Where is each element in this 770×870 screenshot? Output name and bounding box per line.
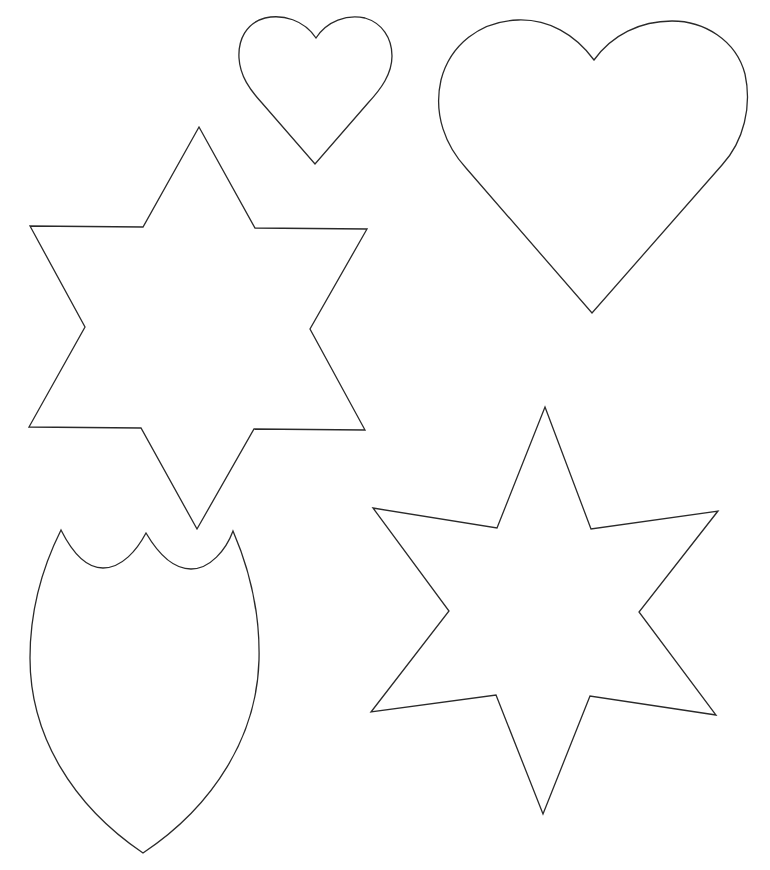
shape-templates-canvas: [0, 0, 770, 870]
